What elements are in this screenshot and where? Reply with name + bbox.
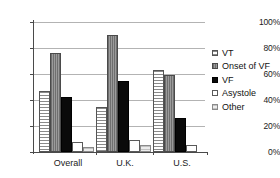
legend-item-onset-of-vf: Onset of VF (212, 60, 280, 74)
bar-overall-vt (39, 91, 50, 152)
y-tick-mark-40 (30, 100, 33, 101)
legend-item-asystole: Asystole (212, 87, 280, 101)
bar-group-us (153, 22, 211, 152)
legend-label-other: Other (222, 102, 245, 112)
x-axis-line (33, 152, 208, 153)
legend-label-onset-of-vf: Onset of VF (222, 61, 270, 71)
legend-swatch-asystole-icon (212, 90, 218, 96)
bar-group-overall (39, 22, 97, 152)
y-tick-mark-80 (30, 48, 33, 49)
legend-swatch-vt-icon (212, 50, 218, 56)
legend-label-asystole: Asystole (222, 88, 256, 98)
legend: VT Onset of VF VF Asystole Other (212, 46, 280, 114)
y-tick-mark-20 (30, 126, 33, 127)
y-tick-mark-100 (30, 22, 33, 23)
bar-overall-onset-of-vf (50, 53, 61, 152)
y-axis-line (33, 20, 34, 154)
legend-swatch-other-icon (212, 104, 218, 110)
bar-overall-asystole (72, 142, 83, 152)
x-tick-mark-3 (207, 152, 208, 155)
bar-overall-vf (61, 97, 72, 152)
bar-uk-vt (96, 107, 107, 153)
bar-uk-vf (118, 81, 129, 153)
x-tick-label-us: U.S. (147, 158, 217, 168)
y-tick-mark-0 (30, 152, 33, 153)
y-tick-mark-60 (30, 74, 33, 75)
legend-swatch-onset-of-vf-icon (212, 63, 218, 69)
bar-chart: 100% 80% 60% 40% 20% 0% Overall U.K. U.S… (0, 0, 280, 178)
plot-area (33, 22, 205, 152)
legend-item-vt: VT (212, 46, 280, 60)
y-tick-label-20: 20% (250, 122, 280, 130)
y-tick-label-0: 0% (250, 148, 280, 156)
bar-us-vf (175, 118, 186, 152)
bar-uk-asystole (129, 140, 140, 152)
legend-swatch-vf-icon (212, 77, 218, 83)
x-tick-mark-1 (96, 152, 97, 155)
legend-label-vf: VF (222, 75, 234, 85)
bar-group-uk (96, 22, 154, 152)
y-tick-label-100: 100% (250, 18, 280, 26)
legend-label-vt: VT (222, 48, 234, 58)
x-tick-mark-2 (153, 152, 154, 155)
bar-uk-onset-of-vf (107, 35, 118, 152)
bar-uk-other (140, 145, 151, 152)
bar-us-onset-of-vf (164, 75, 175, 152)
bar-us-vt (153, 70, 164, 152)
legend-item-other: Other (212, 100, 280, 114)
legend-item-vf: VF (212, 73, 280, 87)
bar-us-asystole (186, 145, 197, 152)
